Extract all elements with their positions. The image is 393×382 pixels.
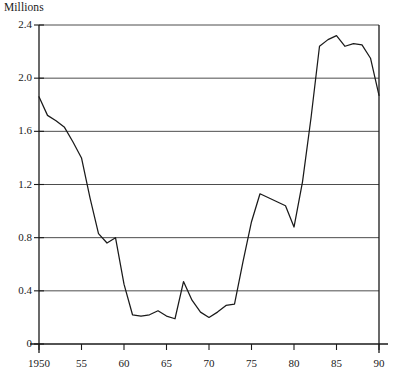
y-tick-label-wrap: 0 bbox=[6, 338, 32, 349]
y-tick-label: 0.4 bbox=[6, 285, 32, 296]
line-chart-plot bbox=[0, 0, 393, 382]
axis-lines bbox=[30, 25, 388, 353]
y-tick-label: 2.0 bbox=[6, 72, 32, 83]
y-tick-label-wrap: 2.0 bbox=[6, 72, 32, 83]
x-tick-label: 65 bbox=[161, 357, 172, 369]
x-tick-label: 55 bbox=[76, 357, 87, 369]
y-tick-label-wrap: 1.6 bbox=[6, 125, 32, 136]
gridlines bbox=[39, 25, 379, 291]
x-tick-label: 80 bbox=[289, 357, 300, 369]
y-tick-label: 1.6 bbox=[6, 125, 32, 136]
y-tick-label-wrap: 0.4 bbox=[6, 285, 32, 296]
y-tick-label: 1.2 bbox=[6, 179, 32, 190]
chart-container: Millions 2.42.01.61.20.80.40 19505560657… bbox=[0, 0, 393, 382]
y-tick-label: 0.8 bbox=[6, 232, 32, 243]
y-tick-label-wrap: 0.8 bbox=[6, 232, 32, 243]
x-axis-tick-marks bbox=[39, 344, 379, 350]
x-tick-label: 70 bbox=[204, 357, 215, 369]
x-tick-label: 75 bbox=[246, 357, 257, 369]
y-tick-label: 0 bbox=[6, 338, 32, 349]
y-axis-title: Millions bbox=[4, 0, 44, 14]
x-tick-label: 85 bbox=[331, 357, 342, 369]
x-tick-label: 1950 bbox=[28, 357, 50, 369]
y-tick-label: 2.4 bbox=[6, 19, 32, 30]
x-tick-label: 60 bbox=[119, 357, 130, 369]
y-tick-label-wrap: 2.4 bbox=[6, 19, 32, 30]
x-tick-label: 90 bbox=[374, 357, 385, 369]
y-tick-label-wrap: 1.2 bbox=[6, 179, 32, 190]
